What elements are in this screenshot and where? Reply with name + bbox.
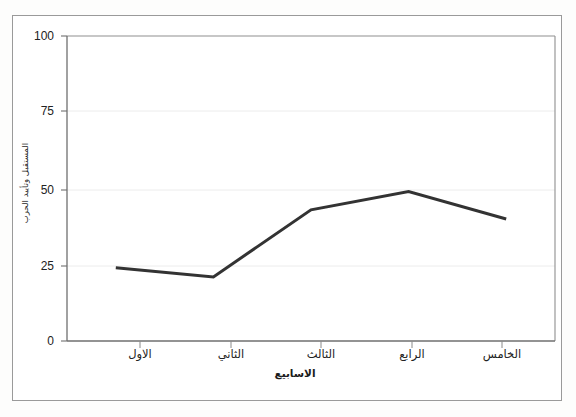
y-axis-label-0: 0: [14, 334, 54, 348]
y-axis-label-100: 100: [14, 29, 54, 43]
x-axis-title: الاسابيع: [240, 367, 350, 379]
y-tick-marks: [61, 36, 67, 341]
plot-background: [67, 36, 555, 341]
line-chart: 100 75 50 25 0 المستقبل وتأييد الحرب الا…: [0, 0, 576, 417]
x-axis-label-week-4: الرابع: [366, 347, 458, 361]
y-axis-label-75: 75: [14, 104, 54, 118]
x-axis-label-week-2: الثاني: [185, 347, 277, 361]
y-axis-title: المستقبل وتأييد الحرب: [17, 118, 33, 248]
x-axis-label-week-3: الثالث: [275, 347, 367, 361]
x-axis-label-week-1: الاول: [94, 347, 186, 361]
y-axis-title-text: المستقبل وتأييد الحرب: [20, 143, 30, 223]
y-axis-label-25: 25: [14, 259, 54, 273]
x-axis-label-week-5: الخامس: [456, 347, 548, 361]
